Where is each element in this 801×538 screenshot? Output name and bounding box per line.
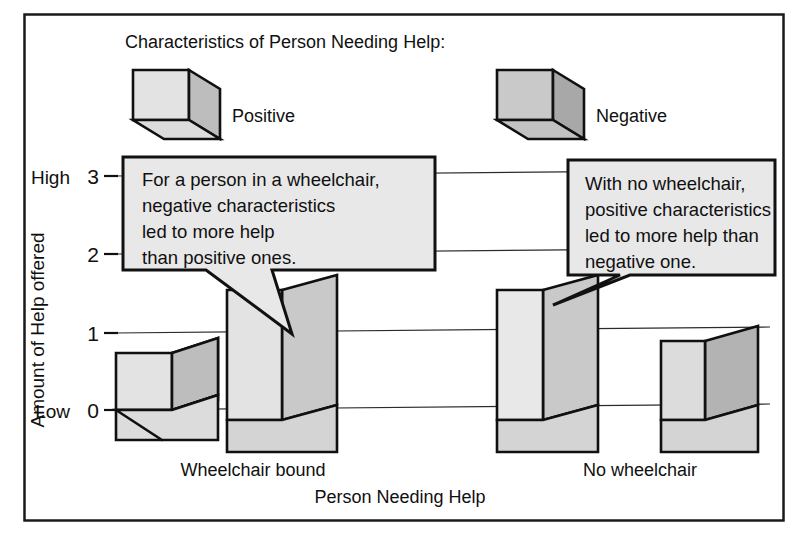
bar-front-face bbox=[497, 290, 543, 420]
callout-line-3: led to more help bbox=[142, 221, 275, 242]
callout-line-2: negative characteristics bbox=[142, 195, 335, 216]
bar-wheelchair-positive[interactable] bbox=[116, 338, 218, 440]
bar-chart-3d: 3 2 1 0 High Low Amount of Help offered bbox=[0, 0, 801, 538]
bar-right-face bbox=[282, 275, 337, 420]
y-axis-title: Amount of Help offered bbox=[27, 232, 48, 427]
callout-line-4: than positive ones. bbox=[142, 247, 296, 268]
legend-label-positive: Positive bbox=[232, 106, 295, 126]
legend-swatch-positive[interactable] bbox=[133, 70, 220, 139]
callout-line-1: With no wheelchair, bbox=[585, 173, 745, 194]
legend-label-negative: Negative bbox=[596, 106, 667, 126]
callout-line-2: positive characteristics bbox=[585, 199, 771, 220]
y-high-label: High bbox=[31, 167, 70, 188]
gridline-1 bbox=[115, 327, 770, 333]
category-label-no-wheelchair: No wheelchair bbox=[583, 460, 697, 480]
legend-cube-front-face bbox=[133, 70, 189, 120]
ytick-label-2: 2 bbox=[87, 243, 99, 266]
bar-nowheelchair-positive[interactable] bbox=[497, 275, 598, 452]
callout-wheelchair[interactable]: For a person in a wheelchair, negative c… bbox=[123, 157, 435, 334]
bar-nowheelchair-negative[interactable] bbox=[661, 326, 758, 452]
callout-line-4: negative one. bbox=[585, 251, 696, 272]
ytick-label-3: 3 bbox=[87, 165, 99, 188]
figure-canvas: 3 2 1 0 High Low Amount of Help offered bbox=[0, 0, 801, 538]
bar-front-face bbox=[116, 353, 172, 410]
ytick-label-0: 0 bbox=[87, 399, 99, 422]
category-label-wheelchair-bound: Wheelchair bound bbox=[180, 460, 325, 480]
legend-title: Characteristics of Person Needing Help: bbox=[125, 32, 445, 52]
callout-line-1: For a person in a wheelchair, bbox=[142, 169, 380, 190]
x-axis-title: Person Needing Help bbox=[314, 487, 485, 507]
legend-swatch-negative[interactable] bbox=[497, 70, 584, 139]
bar-front-face bbox=[661, 341, 705, 420]
ytick-label-1: 1 bbox=[87, 322, 99, 345]
legend-cube-front-face bbox=[497, 70, 553, 120]
callout-line-3: led to more help than bbox=[585, 225, 759, 246]
